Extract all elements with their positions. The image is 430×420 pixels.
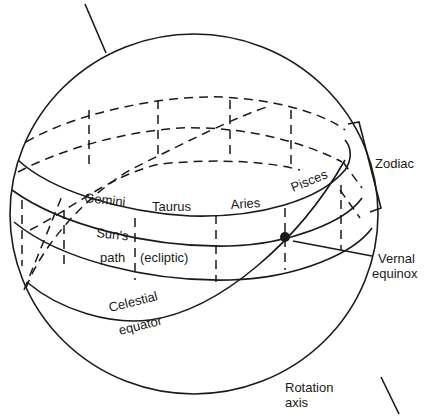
vernal-equinox-dot [280, 232, 290, 242]
label-suns: Sun's [96, 225, 130, 243]
zodiac-band-back-dashed [18, 97, 362, 288]
label-gemini: Gemini [84, 190, 127, 209]
celestial-sphere-outline [10, 34, 378, 394]
label-aries: Aries [230, 195, 261, 212]
label-vernal: Vernal [378, 251, 415, 266]
label-axis: axis [285, 395, 309, 410]
label-equator: equator [117, 313, 164, 338]
equator-back-left [24, 196, 62, 290]
label-ecliptic: (ecliptic) [140, 250, 188, 265]
celestial-sphere-diagram: Zodiac Vernal equinox Rotation axis Gemi… [0, 0, 430, 420]
vernal-equinox-pointer [293, 241, 372, 256]
label-pisces: Pisces [289, 166, 331, 194]
zodiac-band-front [12, 140, 372, 280]
label-equinox: equinox [372, 266, 418, 281]
label-rotation: Rotation [285, 380, 333, 395]
label-celestial: Celestial [107, 288, 159, 315]
label-zodiac: Zodiac [375, 156, 415, 171]
label-path: path [100, 250, 125, 265]
label-taurus: Taurus [152, 199, 192, 214]
